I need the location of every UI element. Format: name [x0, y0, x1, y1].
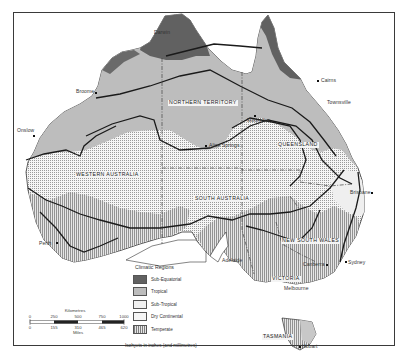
city-dot-brisbane: [371, 192, 373, 194]
scale-mi-tick: 620: [121, 325, 128, 330]
city-dot-canberra: [326, 264, 328, 266]
city-dot-alice-springs: [205, 145, 207, 147]
city-dot-sydney: [345, 261, 347, 263]
city-dot-mount-isa: [254, 115, 256, 117]
city-dot-hobart: [299, 346, 301, 348]
legend-swatch-temperate: [133, 325, 147, 334]
city-dot-perth: [56, 242, 58, 244]
city-label-townsville: Townsville: [327, 100, 351, 105]
legend-swatch-tropical: [133, 287, 147, 296]
city-label-broome: Broome: [76, 89, 94, 94]
legend-label: Sub-Tropical: [151, 302, 177, 307]
city-label-perth: Perth: [39, 241, 51, 246]
city-label-darwin: Darwin: [154, 30, 170, 35]
legend-item-tropical: Tropical: [133, 286, 203, 299]
city-label-melbourne: Melbourne: [284, 286, 309, 291]
city-label-canberra: Canberra: [303, 262, 325, 267]
legend-label: Dry Continental: [151, 314, 183, 319]
scale-mi-tick: 465: [99, 325, 106, 330]
city-label-adelaide: Adelaide: [222, 258, 242, 263]
city-dot-onslow: [33, 135, 35, 137]
city-dot-cairns: [317, 80, 319, 82]
legend-item-dry-continental: Dry Continental: [133, 311, 203, 324]
legend-swatch-sub-equatorial: [133, 275, 147, 284]
isohyets-footnote: Isohyets in inches (and millimetres): [125, 343, 197, 348]
city-label-alice-springs: Alice Springs: [209, 143, 239, 148]
scale-mi-tick: 155: [51, 325, 58, 330]
city-label-cairns: Cairns: [321, 78, 336, 83]
city-label-sydney: Sydney: [348, 260, 365, 265]
state-label-western-australia: WESTERN AUSTRALIA: [75, 172, 140, 178]
city-label-hobart: Hobart: [302, 344, 318, 349]
legend-label: Sub-Equatorial: [151, 277, 181, 282]
state-label-northern-territory: NORTHERN TERRITORY: [168, 100, 238, 106]
state-label-new-south-wales: NEW SOUTH WALES: [281, 238, 340, 244]
scale-km-label: Kilometres: [65, 308, 86, 313]
legend-label: Tropical: [151, 289, 167, 294]
legend-item-sub-equatorial: Sub-Equatorial: [133, 273, 203, 286]
scale-mi-tick: 0: [29, 325, 31, 330]
legend-title: Climatic Regions: [135, 264, 203, 270]
city-dot-broome: [95, 92, 97, 94]
city-label-mount-isa: Mount Isa: [247, 118, 270, 123]
city-label-onslow: Onslow: [17, 128, 34, 133]
state-label-victoria: VICTORIA: [271, 276, 301, 282]
legend-label: Temperate: [151, 327, 173, 332]
state-label-tasmania: TASMANIA: [262, 334, 293, 340]
region-sub-equatorial-nt: [140, 12, 210, 60]
city-label-brisbane: Brisbane: [350, 190, 371, 195]
legend-swatch-dry-continental: [133, 312, 147, 321]
legend-item-temperate: Temperate: [133, 323, 203, 336]
state-label-south-australia: SOUTH AUSTRALIA: [194, 196, 250, 202]
legend-swatch-sub-tropical: [133, 300, 147, 309]
scale-mi-label: Miles: [73, 330, 83, 335]
legend-item-sub-tropical: Sub-Tropical: [133, 298, 203, 311]
scale-bar: Kilometres 0 250 500 750 1000 0 155 310 …: [28, 308, 123, 338]
legend: Climatic Regions Sub-Equatorial Tropical…: [133, 264, 203, 336]
state-label-queensland: QUEENSLAND: [277, 142, 319, 148]
